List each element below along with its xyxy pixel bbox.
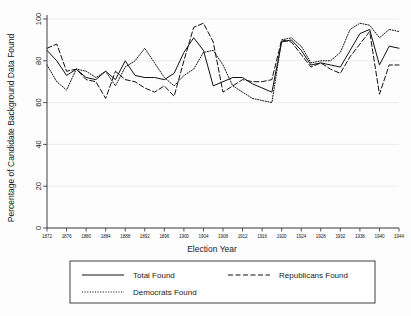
x-tick-label: 1924 xyxy=(296,234,306,239)
y-tick-label: 60 xyxy=(34,98,43,106)
x-tick-label: 1872 xyxy=(42,234,52,239)
y-tick-label: 80 xyxy=(34,57,43,65)
x-tick-label: 1916 xyxy=(257,234,267,239)
x-tick-label: 1884 xyxy=(101,234,111,239)
x-tick-label: 1892 xyxy=(140,234,150,239)
x-tick-label: 1932 xyxy=(335,234,345,239)
line-chart: 020406080100 187218761880188418881892189… xyxy=(0,0,411,316)
y-tick-label: 100 xyxy=(34,13,43,26)
x-tick-label: 1908 xyxy=(218,234,228,239)
y-axis-title: Percentage of Candidate Background Data … xyxy=(6,33,16,222)
x-tick-label: 1944 xyxy=(394,234,404,239)
legend-label-total-found: Total Found xyxy=(133,271,175,280)
x-tick-label: 1904 xyxy=(199,234,209,239)
x-tick-label: 1888 xyxy=(120,234,130,239)
x-axis-title: Election Year xyxy=(187,244,237,254)
x-tick-label: 1880 xyxy=(81,234,91,239)
legend-label-republicans-found: Republicans Found xyxy=(279,271,348,280)
legend-label-democrats-found: Democrats Found xyxy=(133,288,197,297)
y-tick-label: 40 xyxy=(34,140,43,148)
x-tick-label: 1912 xyxy=(238,234,248,239)
x-tick-label: 1936 xyxy=(355,234,365,239)
x-tick-label: 1940 xyxy=(375,234,385,239)
x-tick-label: 1896 xyxy=(159,234,169,239)
chart-figure: 020406080100 187218761880188418881892189… xyxy=(0,0,411,316)
y-tick-label: 0 xyxy=(34,226,43,230)
x-tick-label: 1900 xyxy=(179,234,189,239)
chart-legend: Total Found Republicans Found Democrats … xyxy=(70,261,375,303)
y-tick-label: 20 xyxy=(34,182,43,190)
x-tick-label: 1928 xyxy=(316,234,326,239)
x-tick-label: 1876 xyxy=(62,234,72,239)
legend-border xyxy=(70,261,375,303)
x-tick-label: 1920 xyxy=(277,234,287,239)
